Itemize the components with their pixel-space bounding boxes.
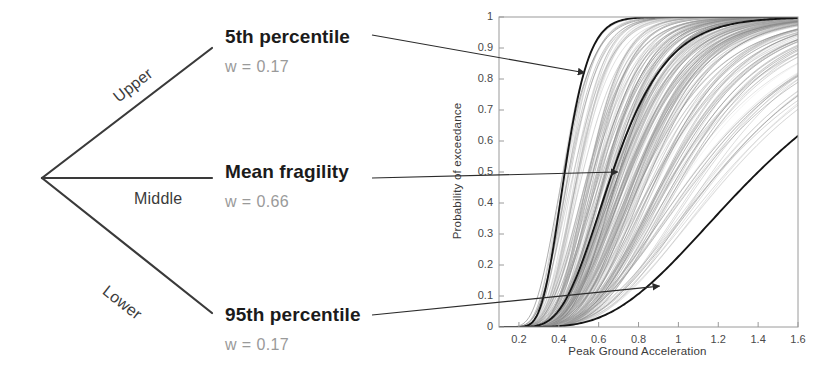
leaf-upper: 5th percentile w = 0.17 xyxy=(225,27,350,75)
branch-line-upper xyxy=(42,48,212,178)
fragility-curve-bundle xyxy=(499,17,798,327)
x-tick-label: 0.4 xyxy=(544,333,574,345)
chart-canvas xyxy=(440,0,835,376)
leaf-weight-5th-percentile: w = 0.17 xyxy=(225,59,350,75)
leaf-title-5th-percentile: 5th percentile xyxy=(225,27,350,46)
y-tick-label: 0.5 xyxy=(463,165,493,177)
leaf-weight-95th-percentile: w = 0.17 xyxy=(225,337,361,353)
y-tick-label: 0.8 xyxy=(463,72,493,84)
leaf-lower: 95th percentile w = 0.17 xyxy=(225,305,361,353)
y-tick-label: 0.9 xyxy=(463,41,493,53)
y-axis-label: Probability of exceedance xyxy=(451,91,463,251)
logic-tree: Upper Middle Lower 5th percentile w = 0.… xyxy=(0,0,440,376)
x-tick-label: 1.4 xyxy=(743,333,773,345)
y-tick-label: 0 xyxy=(463,320,493,332)
leaf-title-mean-fragility: Mean fragility xyxy=(225,162,349,181)
branch-label-middle: Middle xyxy=(134,190,182,208)
leaf-weight-mean-fragility: w = 0.66 xyxy=(225,194,349,210)
x-tick-label: 1.2 xyxy=(703,333,733,345)
y-tick-label: 0.1 xyxy=(463,289,493,301)
x-tick-label: 0.8 xyxy=(624,333,654,345)
x-tick-label: 0.6 xyxy=(584,333,614,345)
y-tick-label: 1 xyxy=(463,10,493,22)
leaf-middle: Mean fragility w = 0.66 xyxy=(225,162,349,210)
y-tick-label: 0.6 xyxy=(463,134,493,146)
x-tick-label: 0.2 xyxy=(504,333,534,345)
figure-root: Upper Middle Lower 5th percentile w = 0.… xyxy=(0,0,835,376)
y-tick-label: 0.7 xyxy=(463,103,493,115)
branch-line-lower xyxy=(42,178,212,313)
y-tick-label: 0.2 xyxy=(463,258,493,270)
leaf-title-95th-percentile: 95th percentile xyxy=(225,305,361,324)
y-tick-label: 0.4 xyxy=(463,196,493,208)
x-tick-label: 1.6 xyxy=(783,333,813,345)
logic-tree-branches xyxy=(0,0,440,376)
x-tick-label: 1 xyxy=(663,333,693,345)
fragility-curve-chart: 00.10.20.30.40.50.60.70.80.91 0.20.40.60… xyxy=(440,0,835,376)
y-tick-label: 0.3 xyxy=(463,227,493,239)
x-axis-label: Peak Ground Acceleration xyxy=(440,345,835,357)
y-axis-label-wrap: Probability of exceedance xyxy=(444,0,464,345)
